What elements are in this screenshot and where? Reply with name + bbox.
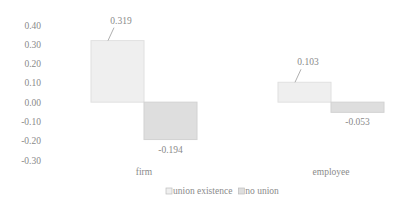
data-label: 0.103	[297, 57, 319, 67]
legend-label: union existence	[173, 186, 232, 196]
legend-swatch	[166, 188, 172, 194]
y-tick-label: -0.30	[21, 156, 41, 166]
legend-label: no union	[245, 186, 279, 196]
data-label: -0.194	[158, 145, 183, 155]
bar-no-union-firm	[144, 102, 197, 139]
bars	[91, 41, 384, 140]
x-axis: firmemployee	[136, 167, 350, 177]
legend: union existenceno union	[166, 186, 279, 196]
y-tick-label: 0.40	[24, 21, 41, 31]
y-tick-label: 0.10	[24, 78, 41, 88]
y-tick-label: 0.30	[24, 40, 41, 50]
leader-line	[108, 28, 114, 41]
data-label: -0.053	[345, 117, 370, 127]
x-tick-label: employee	[313, 167, 350, 177]
y-axis: 0.400.300.200.100.00-0.10-0.20-0.30	[21, 21, 41, 166]
bar-chart: 0.400.300.200.100.00-0.10-0.20-0.30 0.31…	[0, 0, 408, 208]
bar-union-existence-employee	[278, 82, 331, 102]
bar-no-union-employee	[331, 102, 384, 112]
y-tick-label: 0.20	[24, 59, 41, 69]
legend-swatch	[238, 188, 244, 194]
y-tick-label: -0.10	[21, 117, 41, 127]
x-tick-label: firm	[136, 167, 153, 177]
leader-line	[295, 69, 301, 82]
bar-union-existence-firm	[91, 41, 144, 103]
y-tick-label: 0.00	[24, 98, 41, 108]
y-tick-label: -0.20	[21, 136, 41, 146]
data-label: 0.319	[110, 16, 132, 26]
